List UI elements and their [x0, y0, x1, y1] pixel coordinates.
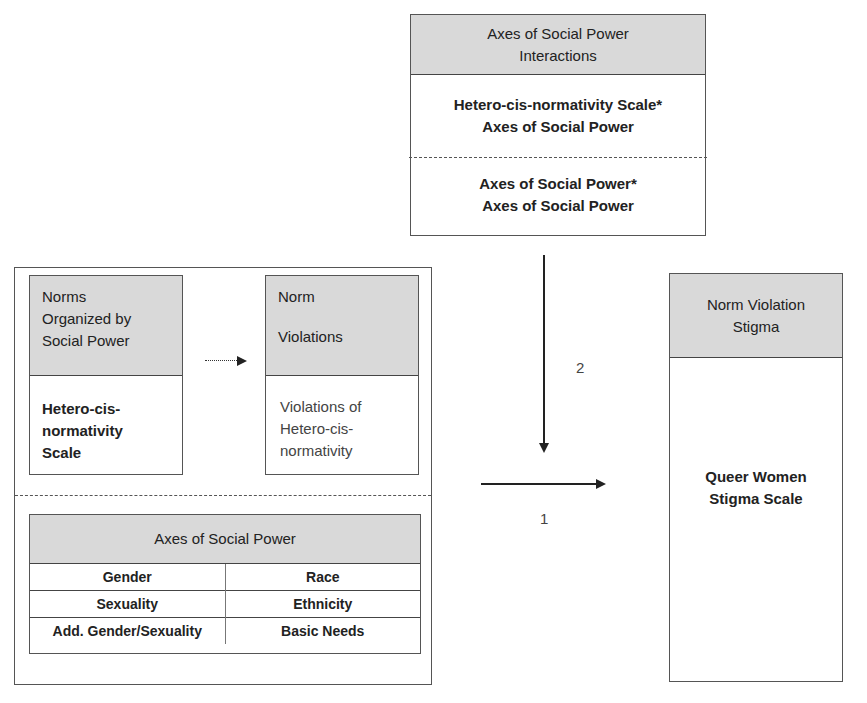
stigma-body-line2: Stigma Scale — [670, 488, 842, 510]
axes-box: Axes of Social Power Gender Race Sexuali… — [29, 514, 421, 654]
norms-header: Norms Organized by Social Power — [30, 276, 182, 376]
norms-header-line2: Organized by — [42, 308, 182, 330]
axes-row: Sexuality Ethnicity — [30, 591, 420, 618]
path-1-label: 1 — [540, 508, 548, 530]
path-1-arrow-line — [481, 483, 597, 485]
stigma-header-line1: Norm Violation — [707, 294, 805, 316]
dotted-arrow — [205, 356, 247, 366]
interactions-header-line1: Axes of Social Power — [487, 23, 629, 45]
interactions-box: Axes of Social Power Interactions Hetero… — [410, 14, 706, 236]
dotted-arrow-line — [205, 360, 237, 361]
interaction-item-2-line2: Axes of Social Power — [482, 195, 634, 217]
violations-body: Violations of Hetero-cis- normativity — [266, 376, 418, 462]
axes-header: Axes of Social Power — [30, 515, 420, 564]
interaction-item-1: Hetero-cis-normativity Scale* Axes of So… — [411, 75, 705, 157]
predictors-divider — [15, 495, 431, 496]
axes-table: Gender Race Sexuality Ethnicity Add. Gen… — [30, 564, 420, 644]
norms-header-line1: Norms — [42, 286, 182, 308]
path-2-arrow-line — [543, 255, 545, 445]
interaction-item-2-line1: Axes of Social Power* — [479, 173, 637, 195]
path-2-label: 2 — [576, 357, 584, 379]
norms-body-line1: Hetero-cis- — [42, 398, 182, 420]
norms-body: Hetero-cis- normativity Scale — [30, 376, 182, 464]
arrowhead-right-icon — [596, 479, 606, 489]
stigma-header: Norm Violation Stigma — [670, 274, 842, 358]
norms-body-line3: Scale — [42, 442, 182, 464]
arrowhead-right-icon — [237, 356, 247, 366]
stigma-header-line2: Stigma — [733, 316, 780, 338]
violations-body-line2: Hetero-cis- — [280, 418, 418, 440]
axes-cell: Basic Needs — [225, 618, 420, 645]
stigma-body-line1: Queer Women — [670, 466, 842, 488]
violations-header-line1: Norm — [278, 286, 418, 308]
interaction-item-1-line1: Hetero-cis-normativity Scale* — [454, 94, 662, 116]
violations-body-line3: normativity — [280, 440, 418, 462]
violations-body-line1: Violations of — [280, 396, 418, 418]
interactions-header-line2: Interactions — [519, 45, 597, 67]
stigma-body: Queer Women Stigma Scale — [670, 358, 842, 510]
violations-header-line2: Violations — [278, 326, 418, 348]
norms-body-line2: normativity — [42, 420, 182, 442]
interaction-item-1-line2: Axes of Social Power — [482, 116, 634, 138]
stigma-box: Norm Violation Stigma Queer Women Stigma… — [669, 273, 843, 682]
interaction-item-2: Axes of Social Power* Axes of Social Pow… — [411, 158, 705, 232]
axes-cell: Sexuality — [30, 591, 225, 618]
axes-cell: Gender — [30, 564, 225, 591]
norms-box: Norms Organized by Social Power Hetero-c… — [29, 275, 183, 475]
norms-header-line3: Social Power — [42, 330, 182, 352]
axes-row: Gender Race — [30, 564, 420, 591]
arrowhead-down-icon — [539, 443, 549, 453]
axes-cell: Race — [225, 564, 420, 591]
violations-header: Norm Violations — [266, 276, 418, 376]
interactions-header: Axes of Social Power Interactions — [411, 15, 705, 75]
axes-cell: Ethnicity — [225, 591, 420, 618]
axes-row: Add. Gender/Sexuality Basic Needs — [30, 618, 420, 645]
axes-cell: Add. Gender/Sexuality — [30, 618, 225, 645]
violations-box: Norm Violations Violations of Hetero-cis… — [265, 275, 419, 475]
